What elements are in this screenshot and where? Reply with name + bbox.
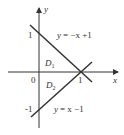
tick-x-1: 1	[78, 75, 83, 85]
region-d1-label: D1	[44, 58, 55, 69]
equation-label-1: y= −x +1	[56, 30, 92, 40]
y-axis-label: y	[43, 4, 48, 14]
equation-label-2: y= x −1	[53, 104, 84, 114]
x-axis-label: x	[112, 75, 117, 85]
region-d2-label: D2	[45, 80, 56, 91]
origin-label: 0	[31, 75, 36, 85]
tick-y-neg1: -1	[25, 104, 33, 114]
diagram-canvas: y x 0 1 -1 1 y= −x +1 y= x −1 D1 D2	[0, 0, 124, 135]
tick-y-1: 1	[28, 30, 33, 40]
